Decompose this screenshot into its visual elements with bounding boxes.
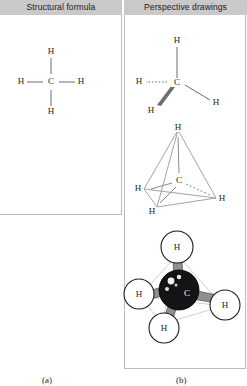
tetra-edge-left-front <box>144 189 157 207</box>
atom-label-hydrogen-right: H <box>75 77 87 86</box>
atom-label-hydrogen-rightdown: H <box>210 98 222 107</box>
atom-label-carbon: C <box>171 78 183 87</box>
wedge-dash-diagram: C H H H H <box>124 15 246 115</box>
atom-label-hydrogen-right: H <box>216 194 228 203</box>
wedge-dash-bonds <box>124 15 246 115</box>
atom-label-hydrogen-top: H <box>45 47 57 56</box>
atom-label-carbon: C <box>45 77 57 86</box>
tetra-edge-front-right <box>157 198 216 207</box>
tetrahedron-diagram: C H H H H <box>124 115 246 220</box>
atom-label-hydrogen-right: H <box>219 301 231 310</box>
tetrahedron-edges <box>124 115 246 220</box>
atom-label-carbon: C <box>173 176 185 185</box>
sphere-carbon: C <box>159 270 199 310</box>
bond-c-h-left-down-wedge <box>157 85 175 106</box>
bond-c-h-left <box>151 183 172 189</box>
structural-formula-diagram: C H H H H <box>0 0 122 215</box>
column-header-perspective-drawings: Perspective drawings <box>124 0 247 15</box>
atom-label-hydrogen-left: H <box>133 290 145 299</box>
bond-c-h-front <box>160 187 176 203</box>
atom-label-hydrogen-up: H <box>171 36 183 45</box>
atom-label-hydrogen-left: H <box>15 77 27 86</box>
caption-b: (b) <box>176 375 187 385</box>
atom-label-hydrogen-front: H <box>146 207 158 216</box>
atom-label-hydrogen-front: H <box>158 324 170 333</box>
atom-label-hydrogen-apex: H <box>172 123 184 132</box>
atom-label-hydrogen-top: H <box>171 243 183 252</box>
ball-and-stick-diagram: C H H H H <box>124 220 246 350</box>
atom-label-hydrogen-left: H <box>133 77 145 86</box>
atom-label-hydrogen-left: H <box>132 184 144 193</box>
atom-label-hydrogen-bottom: H <box>45 107 57 116</box>
atom-label-hydrogen-leftdown: H <box>145 106 157 115</box>
ball-and-stick-model: C <box>124 220 246 350</box>
bond-c-h-apex <box>178 137 179 173</box>
bond-c-h-right <box>186 184 210 195</box>
bond-c-h-right-down <box>185 85 210 100</box>
structural-formula-bonds <box>0 0 122 215</box>
caption-a: (a) <box>42 375 52 385</box>
svg-text:C: C <box>184 288 190 298</box>
